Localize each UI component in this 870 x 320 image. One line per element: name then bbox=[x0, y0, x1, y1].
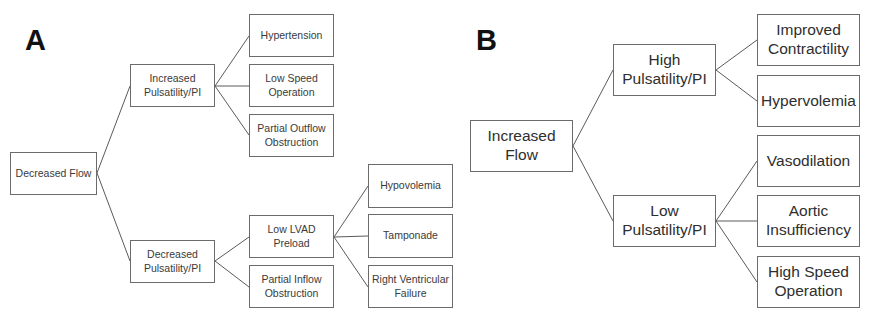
node-high-speed-operation: High Speed Operation bbox=[757, 256, 860, 308]
node-increased-flow: Increased Flow bbox=[470, 120, 573, 172]
node-hypervolemia: Hypervolemia bbox=[757, 75, 860, 127]
node-high-pulsatility: High Pulsatility/PI bbox=[613, 44, 716, 96]
node-vasodilation: Vasodilation bbox=[757, 135, 860, 187]
node-hypovolemia: Hypovolemia bbox=[368, 164, 453, 208]
node-low-pulsatility: Low Pulsatility/PI bbox=[613, 195, 716, 247]
node-low-speed-operation: Low Speed Operation bbox=[249, 64, 334, 107]
node-partial-inflow-obstruction: Partial Inflow Obstruction bbox=[249, 265, 334, 308]
node-low-lvad-preload: Low LVAD Preload bbox=[249, 215, 334, 258]
node-improved-contractility: Improved Contractility bbox=[757, 14, 860, 66]
node-decreased-flow: Decreased Flow bbox=[10, 152, 97, 195]
node-decreased-pulsatility: Decreased Pulsatility/PI bbox=[130, 240, 215, 283]
node-right-ventricular-failure: Right Ventricular Failure bbox=[368, 265, 453, 308]
node-partial-outflow-obstruction: Partial Outflow Obstruction bbox=[249, 114, 334, 157]
panel-b-label: B bbox=[476, 26, 497, 55]
panel-a-label: A bbox=[25, 26, 46, 55]
node-aortic-insufficiency: Aortic Insufficiency bbox=[757, 195, 860, 247]
node-hypertension: Hypertension bbox=[249, 14, 334, 57]
node-increased-pulsatility: Increased Pulsatility/PI bbox=[130, 64, 215, 107]
node-tamponade: Tamponade bbox=[368, 214, 453, 258]
